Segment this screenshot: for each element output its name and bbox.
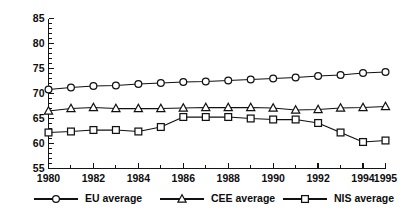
triangle-marker [89,103,97,110]
square-marker [90,127,97,134]
circle-marker [202,78,209,85]
circle-marker [315,73,322,80]
x-axis-tick-label: 1994 [351,172,375,184]
series-cee-average [44,102,389,114]
y-axis-tick-label: 70 [33,87,45,99]
x-axis-tick-label: 1990 [261,172,285,184]
legend-item-eu-average[interactable]: EU average [34,192,142,204]
legend-label: EU average [85,192,142,204]
x-axis-tick-label: 1980 [37,172,61,184]
circle-marker [270,75,277,82]
triangle-marker [381,102,389,109]
data-series-group [44,69,389,146]
square-marker [360,139,367,146]
circle-marker [157,80,164,87]
circle-marker [45,86,52,93]
circle-marker [180,79,187,86]
y-axis-tick-label: 65 [33,112,45,124]
circle-marker [382,69,389,76]
x-axis-tick-label: 1982 [82,172,106,184]
series-line [49,72,386,90]
square-marker [382,137,389,144]
circle-marker [225,77,232,84]
circle-marker [113,82,120,89]
series-line [49,117,386,142]
circle-marker [247,76,254,83]
circle-marker [292,74,299,81]
y-axis-tick-label: 60 [33,137,45,149]
square-marker [68,128,75,135]
square-marker [180,114,187,121]
legend-item-cee-average[interactable]: CEE average [160,192,275,204]
circle-marker [135,81,142,88]
square-marker [315,120,322,127]
square-marker [225,114,232,121]
square-marker [135,128,142,135]
series-line [49,107,386,112]
x-axis-tick-label: 1984 [127,172,151,184]
legend-label: NIS average [334,192,394,204]
legend-label: CEE average [211,192,275,204]
square-marker [270,116,277,123]
circle-marker [360,70,367,77]
y-axis-tick-label: 85 [33,12,45,24]
square-marker [45,129,52,136]
x-axis-tick-label: 1992 [306,172,330,184]
y-axis-tick-label: 80 [33,37,45,49]
circle-marker [68,84,75,91]
series-eu-average [45,69,389,93]
square-marker [157,124,164,131]
x-axis-tick-label: 1986 [172,172,196,184]
y-axis: 55606570758085 [33,12,54,174]
circle-marker [90,83,97,90]
line-chart: 55606570758085 1980198219841986198819901… [0,0,400,220]
square-marker [337,129,344,136]
square-marker [113,127,120,134]
circle-marker [53,196,60,203]
chart-canvas: 55606570758085 1980198219841986198819901… [0,0,400,220]
square-marker [247,115,254,122]
chart-legend: EU averageCEE averageNIS average [34,192,394,204]
x-axis-tick-label: 1988 [217,172,241,184]
square-marker [292,116,299,123]
square-marker [302,196,309,203]
circle-marker [337,72,344,79]
x-axis-tick-label: 1995 [374,172,398,184]
legend-item-nis-average[interactable]: NIS average [283,192,394,204]
square-marker [202,114,209,121]
x-axis: 198019821984198619881990199219941995 [37,163,398,184]
y-axis-tick-label: 75 [33,62,45,74]
series-nis-average [45,114,389,146]
